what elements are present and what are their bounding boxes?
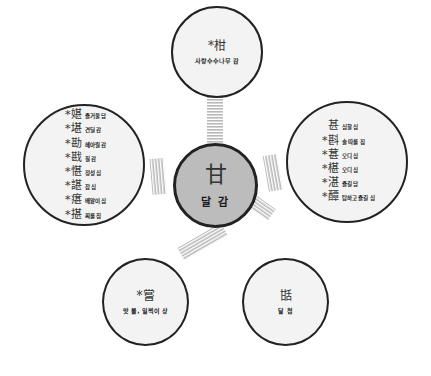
list-item: *葚오디 심 <box>319 148 359 162</box>
list-item: *湛즐길 담 <box>319 176 359 190</box>
node-bottom-right-meaning: 달 첨 <box>278 306 292 315</box>
node-top: *柑 사랑수수나무 감 <box>171 6 263 98</box>
node-center-meaning: 달 감 <box>201 193 231 209</box>
node-top-hanja: *柑 <box>208 39 226 53</box>
list-item: *堪견딜 감 <box>62 122 102 136</box>
connector-left <box>149 158 166 195</box>
node-right: 甚심할 심 *斟술 따를 짐 *葚오디 심 *椹오디 심 *湛즐길 담 *醰탐하… <box>286 101 408 223</box>
node-bottom-left-meaning: 맛 볼, 일찍이 상 <box>123 306 168 315</box>
list-item: *斟술 따를 짐 <box>319 134 366 148</box>
node-bottom-right: 甛 달 첨 <box>242 258 329 346</box>
node-bottom-right-hanja: 甛 <box>280 289 292 303</box>
node-left: *媅즐거울 담 *堪견딜 감 *勘헤아릴 감 *戡칠 감 *愖정성 심 *諶참 … <box>23 104 145 226</box>
node-right-list: 甚심할 심 *斟술 따를 짐 *葚오디 심 *椹오디 심 *湛즐길 담 *醰탐하… <box>319 119 376 204</box>
list-item: *醰탐하고 즐길 심 <box>319 190 376 204</box>
node-top-meaning: 사랑수수나무 감 <box>195 56 239 65</box>
list-item: *諶참 심 <box>62 179 97 193</box>
list-item: 甚심할 심 <box>319 119 359 133</box>
connector-bottom-left <box>177 223 227 260</box>
connector-right <box>263 154 283 192</box>
node-bottom-left: *嘗 맛 볼, 일찍이 상 <box>102 258 189 346</box>
list-item: *勘헤아릴 감 <box>62 137 107 151</box>
list-item: *椹오디 심 <box>319 162 359 176</box>
node-center-hanja: 甘 <box>205 163 227 187</box>
node-center: 甘 달 감 <box>173 143 258 228</box>
node-bottom-left-hanja: *嘗 <box>137 289 155 303</box>
list-item: *戡칠 감 <box>62 151 97 165</box>
list-item: *媅즐거울 담 <box>62 108 107 122</box>
list-item: *瘎배앓이 심 <box>62 193 107 207</box>
connector-top <box>207 96 223 146</box>
list-item: *愖정성 심 <box>62 165 102 179</box>
node-left-list: *媅즐거울 담 *堪견딜 감 *勘헤아릴 감 *戡칠 감 *愖정성 심 *諶참 … <box>62 108 107 222</box>
list-item: *揕찌를 침 <box>62 208 102 222</box>
